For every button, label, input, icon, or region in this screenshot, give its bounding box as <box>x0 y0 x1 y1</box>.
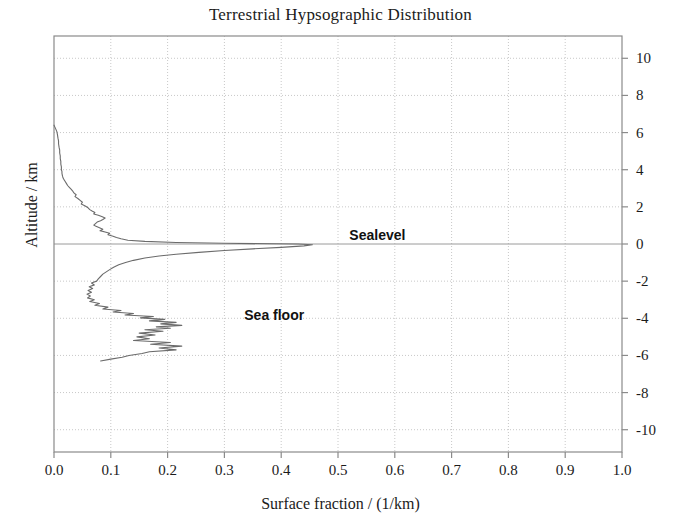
x-tick-label: 0.6 <box>385 462 404 479</box>
hypsographic-chart-figure: Terrestrial Hypsographic Distribution Al… <box>0 0 681 529</box>
x-tick-label: 0.4 <box>272 462 291 479</box>
annotation-label: Sea floor <box>244 307 304 323</box>
y-tick-label: -10 <box>636 421 656 438</box>
y-tick-label: 8 <box>636 87 644 104</box>
y-tick-label: 10 <box>636 50 651 67</box>
y-tick-label: -6 <box>636 347 649 364</box>
y-axis-label: Altitude / km <box>23 95 41 315</box>
chart-title: Terrestrial Hypsographic Distribution <box>0 5 681 25</box>
x-tick-label: 0.8 <box>499 462 518 479</box>
x-tick-label: 0.1 <box>101 462 120 479</box>
y-tick-label: 2 <box>636 198 644 215</box>
x-tick-label: 0.2 <box>158 462 177 479</box>
x-tick-label: 0.5 <box>329 462 348 479</box>
plot-area <box>0 0 681 529</box>
y-tick-label: 6 <box>636 124 644 141</box>
y-tick-label: -8 <box>636 384 649 401</box>
x-axis-label: Surface fraction / (1/km) <box>0 495 681 513</box>
axis-ticks <box>54 58 628 458</box>
gridlines <box>54 36 622 452</box>
hypsographic-curve <box>54 125 312 361</box>
x-tick-label: 0.9 <box>556 462 575 479</box>
y-tick-label: 0 <box>636 236 644 253</box>
x-tick-label: 0.3 <box>215 462 234 479</box>
y-tick-label: 4 <box>636 161 644 178</box>
y-tick-label: -4 <box>636 310 649 327</box>
x-tick-label: 1.0 <box>613 462 632 479</box>
x-tick-label: 0.0 <box>45 462 64 479</box>
x-tick-label: 0.7 <box>442 462 461 479</box>
annotation-label: Sealevel <box>349 227 405 243</box>
y-tick-label: -2 <box>636 273 649 290</box>
